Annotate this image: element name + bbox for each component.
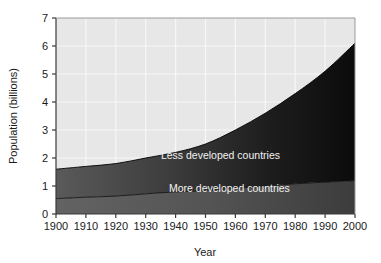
x-tick-label: 1980 — [283, 220, 307, 232]
y-tick-label: 5 — [42, 68, 48, 80]
x-tick-label: 1930 — [133, 220, 157, 232]
x-tick-label: 2000 — [343, 220, 367, 232]
y-tick-label: 6 — [42, 40, 48, 52]
x-tick-label: 1920 — [104, 220, 128, 232]
x-tick-label: 1970 — [253, 220, 277, 232]
y-tick-label: 7 — [42, 12, 48, 24]
series-label-less-developed: Less developed countries — [161, 149, 280, 161]
series-label-more-developed: More developed countries — [169, 182, 290, 194]
y-axis-title: Population (billions) — [7, 68, 19, 164]
y-tick-label: 2 — [42, 152, 48, 164]
y-tick-label: 0 — [42, 208, 48, 220]
y-tick-label: 4 — [42, 96, 48, 108]
y-tick-label: 3 — [42, 124, 48, 136]
x-tick-label: 1900 — [44, 220, 68, 232]
y-tick-label: 1 — [42, 180, 48, 192]
chart-svg: 01234567 1900191019201930194019501960197… — [0, 0, 381, 263]
x-tick-label: 1990 — [313, 220, 337, 232]
x-tick-label: 1960 — [223, 220, 247, 232]
population-area-chart: 01234567 1900191019201930194019501960197… — [0, 0, 381, 263]
x-tick-label: 1910 — [74, 220, 98, 232]
x-axis-title: Year — [194, 246, 217, 258]
x-tick-label: 1940 — [163, 220, 187, 232]
x-tick-label: 1950 — [193, 220, 217, 232]
